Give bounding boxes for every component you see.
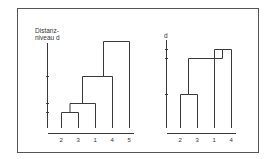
leaf-label: 4 xyxy=(230,137,234,143)
left-y-label-line1: Distanz- xyxy=(35,27,59,34)
leaf-label: 2 xyxy=(60,137,64,143)
merge-23-1 xyxy=(70,104,96,129)
merge-2-3 xyxy=(62,113,79,129)
leaf-label: 3 xyxy=(196,137,200,143)
right-dendrogram: d 2 3 1 4 xyxy=(164,32,236,143)
merge-1-4 xyxy=(215,50,232,129)
merge-2-3 xyxy=(181,95,198,129)
left-dendrogram: Distanz- niveau d 2 3 1 4 5 xyxy=(35,27,134,143)
merge-23-14-inversion xyxy=(189,50,223,95)
leaf-label: 4 xyxy=(111,137,115,143)
leaf-label: 2 xyxy=(179,137,183,143)
leaf-label: 1 xyxy=(213,137,217,143)
dendrogram-figure: Distanz- niveau d 2 3 1 4 5 d xyxy=(0,0,271,159)
merge-2314-5 xyxy=(104,42,130,129)
leaf-label: 3 xyxy=(77,137,81,143)
right-y-label: d xyxy=(164,32,168,39)
leaf-label: 5 xyxy=(128,137,132,143)
left-y-label-line2: niveau d xyxy=(35,34,60,41)
leaf-label: 1 xyxy=(94,137,98,143)
merge-231-4 xyxy=(83,77,113,129)
